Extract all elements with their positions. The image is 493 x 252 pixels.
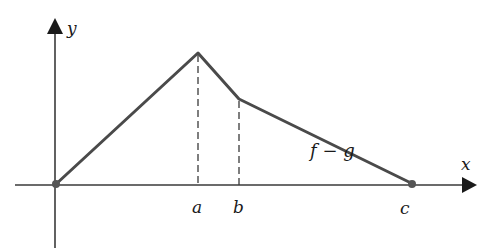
x-axis-arrow-icon (462, 177, 477, 193)
curve-f-minus-g (55, 53, 413, 185)
label-a: a (192, 197, 202, 217)
label-c: c (400, 198, 410, 218)
y-axis-arrow-icon (47, 18, 63, 34)
label-b: b (233, 197, 244, 217)
curve-label: f − g (308, 140, 355, 161)
y-axis-label: y (66, 18, 77, 38)
c-dot (408, 180, 416, 188)
x-axis-label: x (461, 154, 471, 174)
origin-dot (52, 180, 60, 188)
diagram-canvas: y x a b c f − g (0, 0, 493, 252)
